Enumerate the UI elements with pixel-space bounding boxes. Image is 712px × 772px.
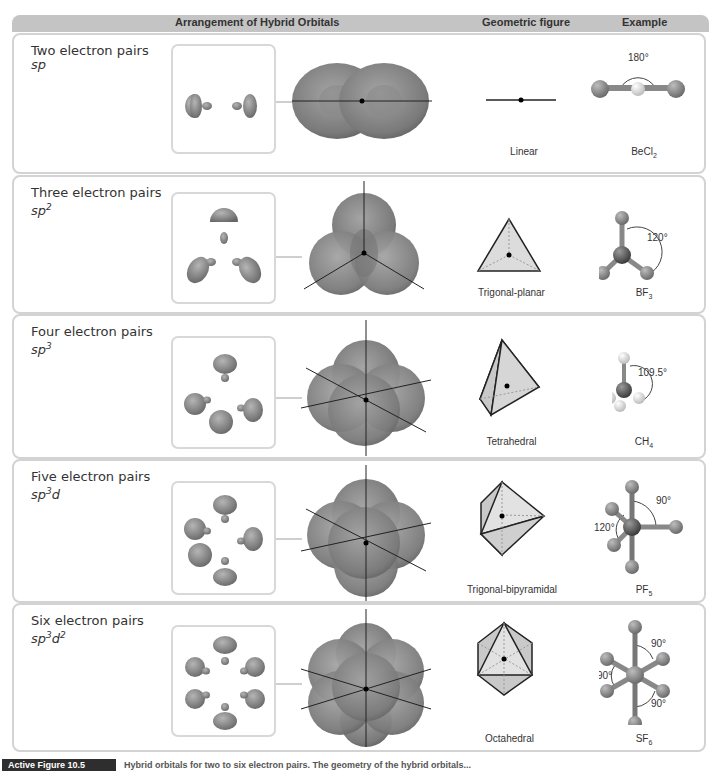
figure-caption: Active Figure 10.5 Hybrid orbitals for t… (0, 759, 712, 771)
combined-orbitals-icon (296, 465, 436, 605)
example-formula: PF5 (614, 584, 674, 597)
svg-text:120°: 120° (594, 522, 615, 533)
svg-text:180°: 180° (628, 52, 649, 63)
hybridization-label: sp3d2 (31, 628, 144, 646)
svg-text:90°: 90° (599, 670, 612, 681)
orbital-lobes-icon (173, 194, 274, 302)
orbital-lobes-icon (173, 483, 274, 593)
caption-tag: Active Figure 10.5 (2, 759, 116, 771)
electron-pairs-label: Four electron pairs (31, 324, 153, 339)
example-formula: SF6 (614, 733, 674, 746)
bf3-molecule-icon: 120° (599, 207, 689, 287)
tetrahedral-geometry-icon (477, 337, 547, 417)
row-sp3: Four electron pairs sp3 Tetrahedral (12, 314, 706, 459)
hybridization-label: sp (31, 58, 149, 72)
hybridization-label: sp3 (31, 339, 153, 357)
svg-text:90°: 90° (651, 638, 666, 649)
combined-orbitals-icon (292, 37, 432, 157)
table-header: Arrangement of Hybrid Orbitals Geometric… (12, 15, 709, 32)
hybrid-orbitals-box (171, 625, 276, 737)
combined-orbitals-icon (296, 320, 436, 460)
header-geometric-figure: Geometric figure (482, 16, 570, 28)
trigonal-bipyramidal-geometry-icon (479, 479, 549, 559)
hybrid-orbitals-box (171, 192, 276, 304)
trigonal-planar-geometry-icon (474, 215, 544, 275)
example-formula: CH4 (614, 436, 674, 449)
svg-text:90°: 90° (651, 698, 666, 709)
geometry-label: Trigonal-planar (469, 287, 554, 298)
electron-pairs-label: Two electron pairs (31, 43, 149, 58)
row-sp3d: Five electron pairs sp3d (12, 459, 706, 603)
example-formula: BeCl2 (614, 146, 674, 159)
svg-text:90°: 90° (656, 495, 671, 506)
row-label: Six electron pairs sp3d2 (31, 614, 144, 646)
becl2-molecule-icon: 180° (586, 45, 696, 105)
example-formula: BF3 (614, 287, 674, 300)
hybrid-orbitals-box (171, 481, 276, 595)
linear-geometry-icon (484, 90, 559, 110)
pf5-molecule-icon: 90° 120° (594, 471, 704, 581)
row-sp3d2: Six electron pairs sp3d2 (12, 603, 706, 752)
hybridization-label: sp3d (31, 484, 150, 502)
row-label: Five electron pairs sp3d (31, 470, 150, 502)
electron-pairs-label: Six electron pairs (31, 613, 144, 628)
row-label: Two electron pairs sp (31, 44, 149, 72)
row-sp: Two electron pairs sp Linear 180° BeCl2 (12, 33, 706, 174)
sf6-molecule-icon: 90° 90° 90° (599, 615, 709, 725)
orbital-lobes-icon (173, 46, 274, 152)
geometry-label: Trigonal-bipyramidal (462, 584, 562, 595)
hybrid-orbitals-box (171, 336, 276, 449)
geometry-label: Octahedral (472, 733, 547, 744)
octahedral-geometry-icon (474, 621, 544, 701)
svg-text:109.5°: 109.5° (638, 367, 667, 378)
row-sp2: Three electron pairs sp2 Trigonal-planar (12, 175, 706, 314)
hybrid-orbitals-box (171, 44, 276, 154)
row-label: Four electron pairs sp3 (31, 325, 153, 357)
geometry-label: Linear (484, 146, 564, 157)
caption-text: Hybrid orbitals for two to six electron … (124, 759, 471, 772)
orbital-lobes-icon (173, 627, 274, 735)
geometry-label: Tetrahedral (474, 436, 549, 447)
row-label: Three electron pairs sp2 (31, 186, 162, 218)
header-arrangement: Arrangement of Hybrid Orbitals (175, 16, 339, 28)
combined-orbitals-icon (299, 181, 429, 311)
electron-pairs-label: Five electron pairs (31, 469, 150, 484)
svg-text:120°: 120° (647, 232, 668, 243)
electron-pairs-label: Three electron pairs (31, 185, 162, 200)
ch4-molecule-icon: 109.5° (612, 346, 702, 426)
hybridization-label: sp2 (31, 200, 162, 218)
combined-orbitals-icon (296, 609, 436, 749)
orbital-lobes-icon (173, 338, 274, 447)
header-example: Example (622, 16, 667, 28)
